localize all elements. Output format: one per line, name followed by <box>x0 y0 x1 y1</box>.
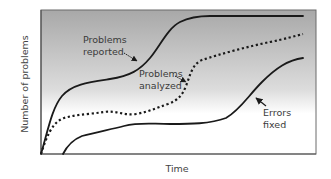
label-reported-line2: reported <box>83 46 124 57</box>
annotation-problems-analyzed: Problems analyzed <box>139 68 186 91</box>
label-reported-line1: Problems <box>83 34 127 45</box>
problems-over-time-chart: Problems reported Problems analyzed Erro… <box>0 0 331 179</box>
y-axis-title: Number of problems <box>19 35 30 133</box>
label-fixed-line2: fixed <box>263 119 286 130</box>
label-analyzed-line1: Problems <box>139 68 183 79</box>
label-fixed-line1: Errors <box>263 107 291 118</box>
label-analyzed-line2: analyzed <box>139 80 182 91</box>
x-axis-title: Time <box>164 163 188 174</box>
